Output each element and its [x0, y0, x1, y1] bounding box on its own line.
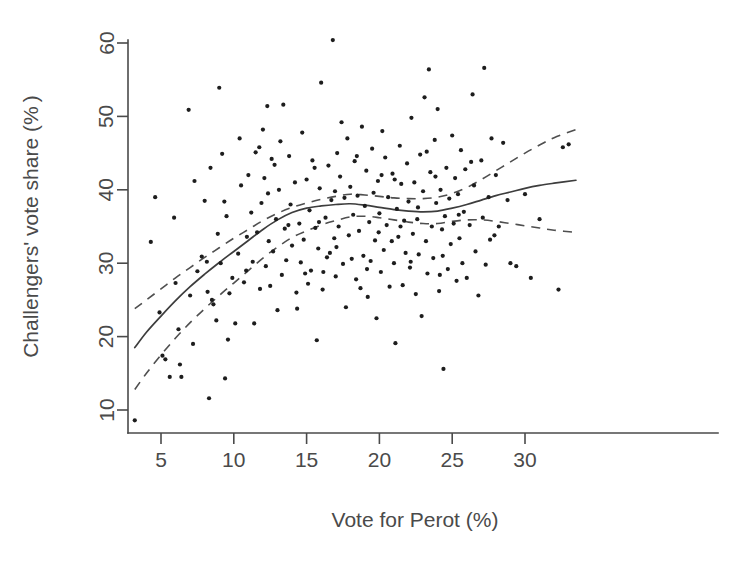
data-point [408, 266, 412, 270]
data-point [200, 254, 204, 258]
data-point [331, 38, 335, 42]
data-point [335, 151, 339, 155]
data-point [309, 268, 313, 272]
data-point [494, 173, 498, 177]
data-point [417, 252, 421, 256]
data-point [233, 321, 237, 325]
data-point [178, 362, 182, 366]
data-point [370, 147, 374, 151]
figure-canvas: 10203040506051015202530Vote for Perot (%… [0, 0, 747, 565]
data-point [318, 186, 322, 190]
data-point [484, 263, 488, 267]
data-point [205, 290, 209, 294]
data-point [245, 235, 249, 239]
data-point [529, 276, 533, 280]
data-point [411, 232, 415, 236]
data-point [300, 130, 304, 134]
data-point [361, 254, 365, 258]
data-point [444, 166, 448, 170]
x-tick-label: 25 [441, 448, 464, 471]
data-point [382, 248, 386, 252]
data-point [188, 293, 192, 297]
data-point [351, 213, 355, 217]
data-point [315, 338, 319, 342]
data-point [416, 205, 420, 209]
data-point [306, 282, 310, 286]
data-point [288, 202, 292, 206]
data-point [567, 142, 571, 146]
data-point [479, 158, 483, 162]
data-point [433, 174, 437, 178]
data-point [332, 236, 336, 240]
data-point [354, 277, 358, 281]
data-point [326, 163, 330, 167]
data-point [168, 375, 172, 379]
data-point [457, 236, 461, 240]
data-point [172, 216, 176, 220]
data-point [287, 154, 291, 158]
data-point [487, 195, 491, 199]
data-point [449, 242, 453, 246]
x-axis-title: Vote for Perot (%) [332, 508, 499, 531]
data-point [153, 195, 157, 199]
data-point [421, 189, 425, 193]
data-point [556, 288, 560, 292]
data-point [405, 161, 409, 165]
data-point [383, 155, 387, 159]
data-point [294, 290, 298, 294]
data-point [334, 274, 338, 278]
data-point [489, 136, 493, 140]
data-point [505, 198, 509, 202]
data-point [187, 108, 191, 112]
data-point [373, 238, 377, 242]
data-point [323, 216, 327, 220]
data-point [236, 252, 240, 256]
data-point [244, 268, 248, 272]
data-point [440, 227, 444, 231]
data-point [497, 224, 501, 228]
data-point [257, 145, 261, 149]
data-point [420, 314, 424, 318]
data-point [427, 67, 431, 71]
data-point [337, 224, 341, 228]
data-point [179, 375, 183, 379]
data-point [329, 198, 333, 202]
data-point [390, 239, 394, 243]
data-point [266, 191, 270, 195]
data-point [290, 243, 294, 247]
data-point [459, 148, 463, 152]
data-point [414, 292, 418, 296]
y-tick-label: 50 [95, 105, 118, 128]
data-point [473, 249, 477, 253]
data-point [501, 141, 505, 145]
data-point [216, 232, 220, 236]
data-point [259, 201, 263, 205]
y-tick-label: 60 [95, 31, 118, 54]
data-point [278, 139, 282, 143]
data-point [492, 233, 496, 237]
data-point [482, 66, 486, 70]
data-point [163, 357, 167, 361]
data-point [230, 276, 234, 280]
data-point [437, 289, 441, 293]
data-point [422, 95, 426, 99]
data-point [227, 291, 231, 295]
data-point [431, 256, 435, 260]
data-point [457, 213, 461, 217]
scatter-plot-svg: 10203040506051015202530Vote for Perot (%… [0, 0, 747, 565]
data-point [353, 159, 357, 163]
data-point [463, 167, 467, 171]
data-point [347, 233, 351, 237]
data-point [203, 199, 207, 203]
data-point [338, 174, 342, 178]
data-point [360, 125, 364, 129]
data-point [393, 177, 397, 181]
data-point [350, 257, 354, 261]
y-tick-label: 40 [95, 178, 118, 201]
data-point [133, 418, 137, 422]
data-point [224, 214, 228, 218]
data-point [334, 245, 338, 249]
data-point [192, 179, 196, 183]
data-point [396, 235, 400, 239]
data-point [295, 307, 299, 311]
